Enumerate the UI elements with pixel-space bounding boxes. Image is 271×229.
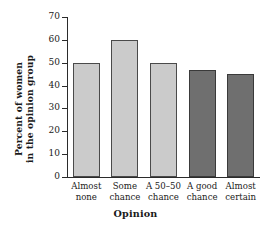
x-tick-label-4: Almostcertain [217, 181, 264, 204]
x-axis-title: Opinion [0, 208, 271, 219]
bar-2 [150, 63, 177, 177]
bar-1 [111, 40, 138, 177]
y-tick-70 [62, 17, 67, 18]
x-tick-label-line1-2: A 50–50 [146, 181, 181, 191]
y-tick-label-70: 70 [38, 11, 60, 21]
y-tick-label-10: 10 [38, 148, 60, 158]
bar-3 [189, 70, 216, 177]
y-tick-60 [62, 40, 67, 41]
x-axis-line [67, 177, 260, 178]
y-tick-10 [62, 154, 67, 155]
x-tick-label-line1-4: Almost [226, 181, 256, 191]
y-tick-20 [62, 131, 67, 132]
y-tick-label-30: 30 [38, 102, 60, 112]
y-tick-40 [62, 86, 67, 87]
y-tick-0 [62, 177, 67, 178]
x-tick-label-line1-3: A good [187, 181, 217, 191]
plot-area: 010203040506070 AlmostnoneSomechanceA 50… [0, 0, 271, 229]
x-tick-label-line1-0: Almost [71, 181, 101, 191]
bar-4 [227, 74, 254, 177]
bar-chart: Percent of women in the opinion group 01… [0, 0, 271, 229]
y-tick-50 [62, 63, 67, 64]
y-tick-label-0: 0 [38, 171, 60, 181]
y-axis-line [67, 17, 68, 178]
x-tick-label-line2-4: certain [217, 192, 264, 203]
x-tick-label-line1-1: Some [113, 181, 137, 191]
y-tick-label-20: 20 [38, 125, 60, 135]
bar-0 [73, 63, 100, 177]
y-tick-label-40: 40 [38, 80, 60, 90]
y-tick-label-50: 50 [38, 57, 60, 67]
y-tick-label-60: 60 [38, 34, 60, 44]
y-tick-30 [62, 108, 67, 109]
